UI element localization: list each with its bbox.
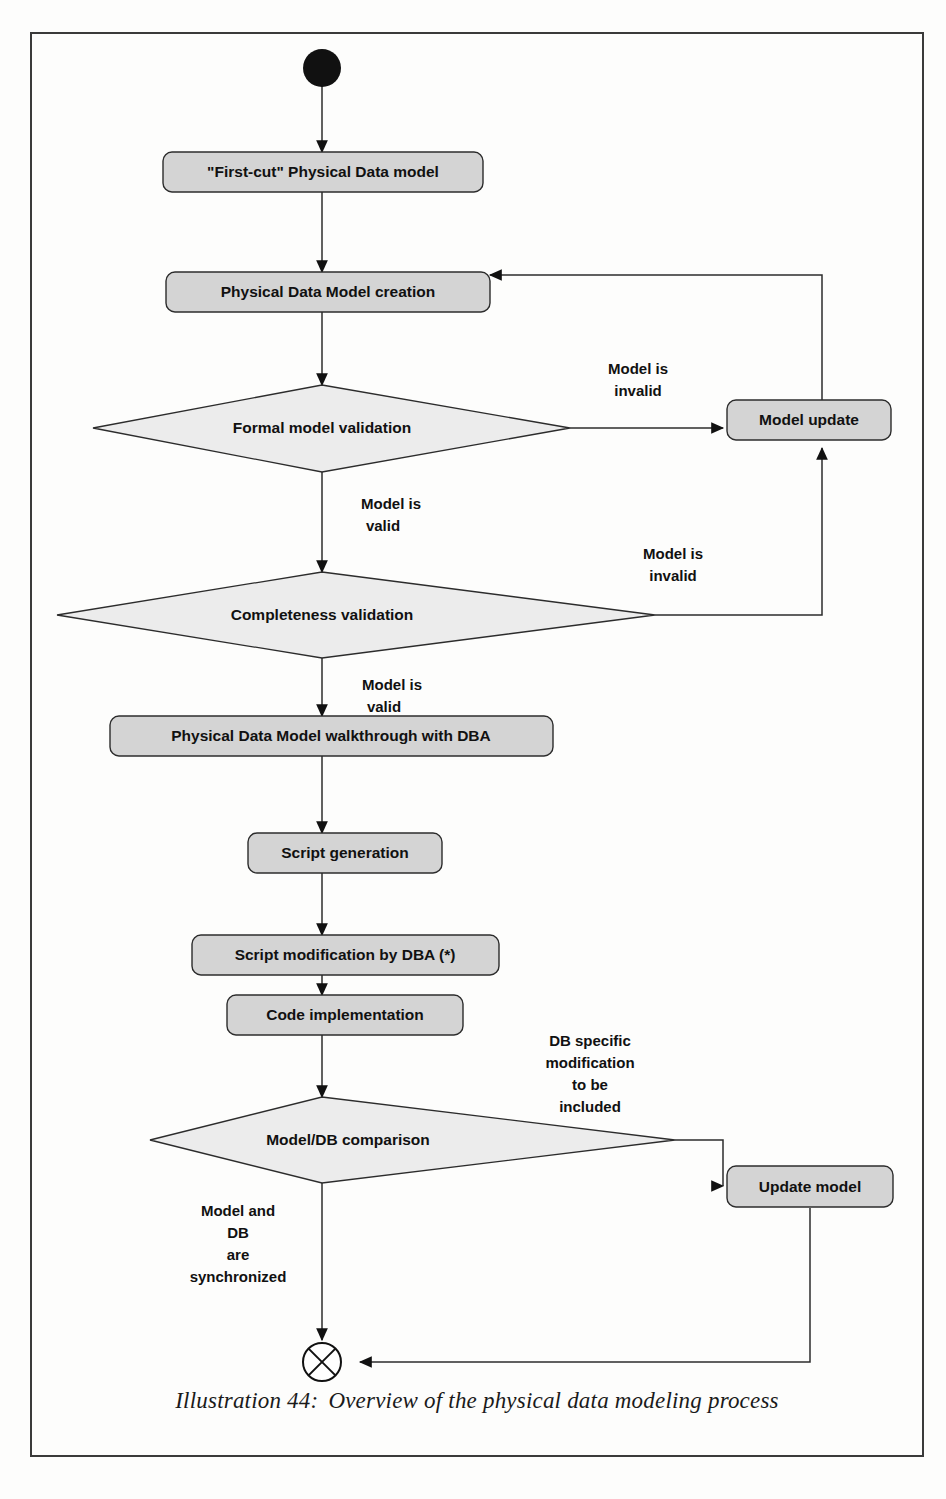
figure-caption: Illustration 44:Overview of the physical… (30, 1388, 924, 1414)
page-canvas: "First-cut" Physical Data model Physical… (0, 0, 946, 1499)
diagram-frame-border (30, 32, 924, 1457)
figure-caption-text: Overview of the physical data modeling p… (328, 1388, 778, 1413)
figure-caption-number: Illustration 44: (175, 1388, 318, 1413)
